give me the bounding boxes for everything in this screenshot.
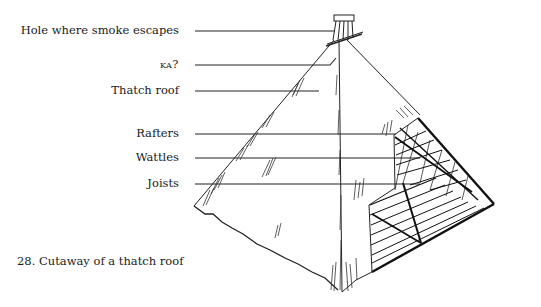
- leader-lines: [195, 31, 420, 184]
- figure-caption: 28. Cutaway of a thatch roof: [17, 254, 183, 268]
- roof-framework: [370, 118, 494, 272]
- roof-outline: [194, 40, 420, 292]
